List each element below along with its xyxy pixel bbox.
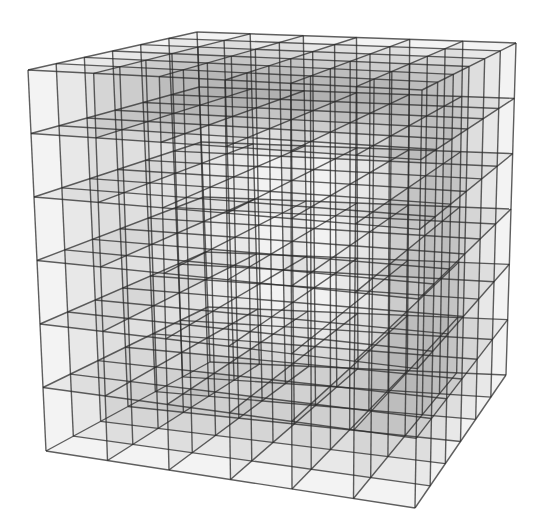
cell-face xyxy=(166,339,230,413)
cell-face xyxy=(40,324,105,396)
cell-face xyxy=(98,202,164,273)
cell-face xyxy=(292,421,354,498)
cell-face xyxy=(230,413,292,489)
cell-face xyxy=(291,83,357,155)
cell-face xyxy=(354,430,417,508)
cell-face xyxy=(43,388,108,461)
cube-lattice-drawing xyxy=(0,0,542,532)
cube-lattice-figure: Cube lattice xyxy=(0,0,542,532)
cell-face xyxy=(354,361,417,438)
